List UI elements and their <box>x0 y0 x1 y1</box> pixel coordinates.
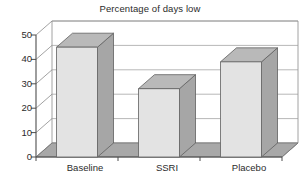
x-tick-label: Placebo <box>232 162 266 173</box>
y-tick-label: 20 <box>6 102 32 113</box>
chart-canvas <box>0 0 300 179</box>
y-tick-label: 50 <box>6 29 32 40</box>
x-tick-label: SSRI <box>156 162 178 173</box>
y-tick-label: 10 <box>6 127 32 138</box>
bar-baseline[interactable] <box>57 33 114 157</box>
plot-area: 01020304050 BaselineSSRIPlacebo <box>0 0 300 179</box>
x-axis-ticks <box>36 157 282 161</box>
bar-face <box>57 47 98 157</box>
bar-face <box>139 89 180 157</box>
chart-root: Percentage of days low <box>0 0 300 179</box>
y-tick-label: 0 <box>6 151 32 162</box>
y-tick-label: 30 <box>6 78 32 89</box>
x-tick-label: Baseline <box>67 162 103 173</box>
bar-face <box>221 62 262 157</box>
y-tick-label: 40 <box>6 53 32 64</box>
bar-placebo[interactable] <box>221 48 278 157</box>
bar-ssri[interactable] <box>139 75 196 157</box>
bar-face <box>98 33 114 157</box>
bar-face <box>262 48 278 157</box>
